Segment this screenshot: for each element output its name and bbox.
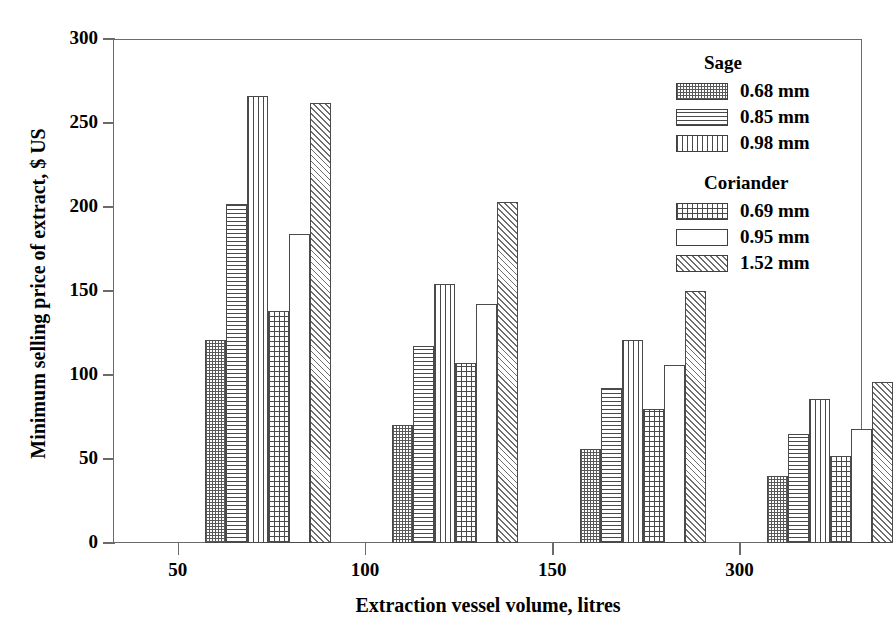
bar <box>851 429 872 543</box>
x-tick-label: 50 <box>143 559 213 581</box>
bar <box>226 204 247 543</box>
legend-item-label: 0.95 mm <box>740 226 810 248</box>
bar <box>310 103 331 543</box>
legend-item-label: 0.69 mm <box>740 200 810 222</box>
legend-item-label: 0.68 mm <box>740 80 810 102</box>
legend-swatch-icon <box>676 203 728 220</box>
x-tick-label: 150 <box>517 559 587 581</box>
legend-swatch-icon <box>676 109 728 126</box>
legend-item: 0.95 mm <box>676 224 856 250</box>
bar <box>601 388 622 543</box>
bar <box>643 409 664 543</box>
legend-item-label: 1.52 mm <box>740 252 810 274</box>
legend-swatch-icon <box>676 83 728 100</box>
x-tick-mark <box>739 543 741 555</box>
bar <box>830 456 851 543</box>
bar <box>247 96 268 543</box>
bar <box>497 202 518 543</box>
y-tick-label: 300 <box>40 28 98 47</box>
y-tick-label: 150 <box>40 280 98 299</box>
legend-group-title-coriander: Coriander <box>704 172 856 194</box>
bar <box>455 363 476 543</box>
legend-item-label: 0.98 mm <box>740 132 810 154</box>
legend: Sage0.68 mm0.85 mm0.98 mmCoriander0.69 m… <box>676 52 856 276</box>
bar <box>767 476 788 543</box>
y-tick-label: 200 <box>40 196 98 215</box>
x-tick-mark <box>365 543 367 555</box>
legend-item: 1.52 mm <box>676 250 856 276</box>
bar <box>268 311 289 543</box>
bar <box>205 340 226 543</box>
y-tick-label: 250 <box>40 112 98 131</box>
bar <box>580 449 601 543</box>
legend-swatch-icon <box>676 229 728 246</box>
bar <box>788 434 809 543</box>
bar <box>434 284 455 543</box>
bar <box>664 365 685 543</box>
legend-item: 0.69 mm <box>676 198 856 224</box>
x-tick-label: 300 <box>704 559 774 581</box>
x-axis-title: Extraction vessel volume, litres <box>113 594 863 617</box>
bar <box>809 399 830 543</box>
bar <box>685 291 706 543</box>
legend-swatch-icon <box>676 135 728 152</box>
y-tick-label: 0 <box>40 532 98 551</box>
y-tick-label: 50 <box>40 448 98 467</box>
bar <box>289 234 310 543</box>
bar <box>476 304 497 543</box>
x-tick-mark <box>178 543 180 555</box>
y-tick-label: 100 <box>40 364 98 383</box>
legend-item: 0.98 mm <box>676 130 856 156</box>
x-tick-label: 100 <box>330 559 400 581</box>
bar <box>413 346 434 543</box>
bar <box>622 340 643 543</box>
bar <box>872 382 893 543</box>
legend-group-title-sage: Sage <box>704 52 856 74</box>
legend-item-label: 0.85 mm <box>740 106 810 128</box>
bar-chart-figure: Minimum selling price of extract, $ US 0… <box>0 0 893 637</box>
bar <box>392 425 413 543</box>
legend-item: 0.68 mm <box>676 78 856 104</box>
legend-item: 0.85 mm <box>676 104 856 130</box>
legend-swatch-icon <box>676 255 728 272</box>
x-tick-mark <box>552 543 554 555</box>
